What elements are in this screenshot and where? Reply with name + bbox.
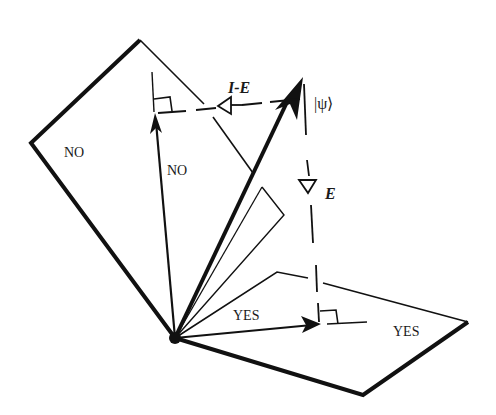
no-plane	[31, 40, 253, 338]
yes-plane-label: YES	[393, 325, 419, 339]
origin-point	[169, 332, 181, 344]
right-angle-marker-yes	[320, 310, 338, 324]
right-angle-marker-no	[154, 97, 172, 111]
e-projection	[299, 84, 319, 322]
psi-ket-label: |ψ⟩	[314, 96, 333, 112]
no-axis-line	[152, 72, 154, 112]
no-vector-label: NO	[167, 164, 187, 178]
projection-diagram	[0, 0, 496, 415]
fold-edge	[175, 187, 284, 338]
open-arrowhead-icon	[218, 97, 231, 114]
yes-axis-line	[327, 322, 367, 324]
i-minus-e-label: I-E	[228, 80, 250, 96]
e-label: E	[325, 186, 336, 202]
no-projection-vector	[150, 113, 175, 338]
psi-vector	[175, 77, 303, 338]
no-plane-label: NO	[64, 146, 84, 160]
yes-vector-label: YES	[233, 309, 259, 323]
open-arrowhead-down-icon	[299, 180, 316, 193]
i-minus-e-projection	[158, 97, 300, 114]
